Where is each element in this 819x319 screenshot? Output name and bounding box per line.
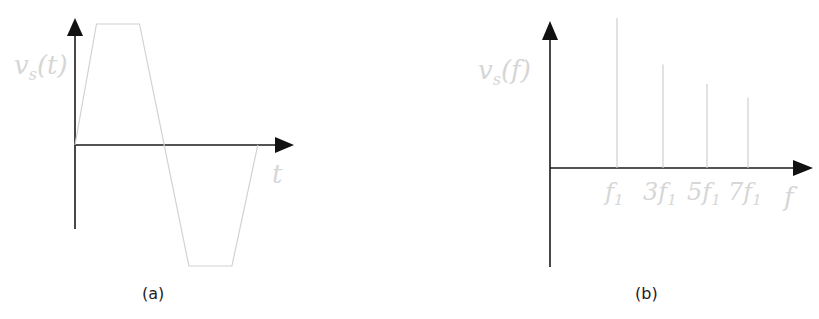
x-label-a: t	[272, 159, 283, 189]
figure: vs(t) t (a) f13f15f17f1 vs(f) f (b)	[0, 0, 819, 319]
tick-label-5f1: 5f1	[687, 178, 721, 209]
y-axis-arrow-a	[67, 18, 83, 36]
x-axis-arrow-a	[275, 137, 294, 153]
y-axis-arrow-b	[542, 21, 558, 40]
tick-label-7f1: 7f1	[728, 178, 762, 209]
x-axis-arrow-b	[793, 160, 813, 176]
panel-a: vs(t) t (a)	[14, 18, 294, 303]
panel-b: f13f15f17f1 vs(f) f (b)	[478, 18, 813, 303]
y-label-a: vs(t)	[14, 50, 68, 84]
tick-labels: f13f15f17f1	[603, 178, 762, 209]
caption-b: (b)	[635, 284, 658, 303]
tick-label-f1: f1	[603, 178, 623, 209]
y-label-b: vs(f)	[478, 55, 531, 89]
tick-label-3f1: 3f1	[643, 178, 677, 209]
caption-a: (a)	[142, 284, 164, 303]
spectral-lines	[617, 18, 748, 168]
x-label-b: f	[782, 182, 798, 212]
